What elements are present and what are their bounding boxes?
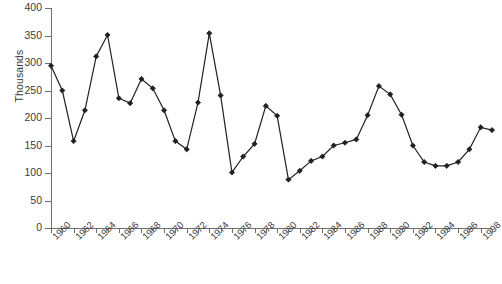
data-point-marker (94, 54, 99, 59)
y-axis-tick-label: 250 (24, 84, 42, 96)
data-point-marker (252, 141, 257, 146)
data-point-marker (116, 96, 121, 101)
data-point-marker (275, 113, 280, 118)
y-axis-tick-mark (45, 173, 51, 174)
y-axis-tick-label: 150 (24, 139, 42, 151)
x-axis-tick-mark (153, 229, 154, 233)
y-axis-tick-label: 0 (36, 221, 42, 233)
data-point-marker (354, 137, 359, 142)
y-axis-tick-label: 400 (24, 1, 42, 13)
data-point-marker (82, 108, 87, 113)
y-axis-tick-label: 350 (24, 29, 42, 41)
series-markers (48, 31, 494, 183)
x-axis-tick-mark (379, 229, 380, 233)
x-axis-tick-mark (311, 229, 312, 233)
x-axis-tick-mark (221, 229, 222, 233)
x-axis-tick-mark (62, 229, 63, 233)
data-point-marker (444, 163, 449, 168)
x-axis-tick-mark (469, 229, 470, 233)
x-axis-tick-mark (243, 229, 244, 233)
data-point-marker (455, 159, 460, 164)
x-axis-tick-mark (492, 229, 493, 233)
x-axis-tick-mark (402, 229, 403, 233)
data-point-marker (331, 143, 336, 148)
data-point-marker (399, 112, 404, 117)
x-axis-tick-mark (175, 229, 176, 233)
data-point-marker (433, 163, 438, 168)
y-axis-tick-mark (45, 91, 51, 92)
data-point-marker (342, 140, 347, 145)
data-point-marker (478, 125, 483, 130)
data-point-marker (410, 143, 415, 148)
data-point-marker (207, 31, 212, 36)
data-point-marker (422, 159, 427, 164)
y-axis-tick-label: 100 (24, 166, 42, 178)
data-point-marker (150, 86, 155, 91)
y-axis-tick-mark (45, 201, 51, 202)
data-point-marker (184, 147, 189, 152)
data-point-marker (241, 154, 246, 159)
data-point-marker (263, 103, 268, 108)
y-axis-title: Thousands (13, 21, 25, 131)
data-point-marker (139, 76, 144, 81)
x-axis-tick-mark (130, 229, 131, 233)
data-point-marker (229, 170, 234, 175)
x-axis-tick-mark (85, 229, 86, 233)
data-point-marker (467, 147, 472, 152)
data-point-marker (297, 168, 302, 173)
y-axis-tick-mark (45, 8, 51, 9)
data-point-marker (161, 108, 166, 113)
y-axis-tick-mark (45, 36, 51, 37)
data-point-marker (320, 154, 325, 159)
series-line (51, 33, 492, 179)
data-point-marker (308, 158, 313, 163)
data-point-marker (195, 100, 200, 105)
x-axis-tick-mark (288, 229, 289, 233)
y-axis-tick-mark (45, 118, 51, 119)
y-axis-tick-label: 200 (24, 111, 42, 123)
y-axis-tick-mark (45, 146, 51, 147)
data-point-marker (286, 177, 291, 182)
x-axis-tick-mark (424, 229, 425, 233)
data-point-marker (376, 84, 381, 89)
data-point-marker (60, 88, 65, 93)
data-point-marker (105, 32, 110, 37)
data-point-marker (173, 139, 178, 144)
data-point-marker (218, 93, 223, 98)
y-axis-tick-mark (45, 63, 51, 64)
x-axis-tick-mark (108, 229, 109, 233)
y-axis-tick-label: 50 (30, 194, 42, 206)
y-axis-tick-label: 300 (24, 56, 42, 68)
x-axis-tick-mark (334, 229, 335, 233)
data-point-marker (71, 139, 76, 144)
x-axis-tick-mark (356, 229, 357, 233)
x-axis-tick-mark (266, 229, 267, 233)
x-axis-tick-mark (198, 229, 199, 233)
y-axis-line (51, 8, 52, 229)
x-axis-tick-label: 1998 (480, 219, 502, 242)
data-point-marker (128, 101, 133, 106)
data-point-marker (388, 92, 393, 97)
data-point-marker (365, 113, 370, 118)
x-axis-tick-mark (447, 229, 448, 233)
data-point-marker (489, 128, 494, 133)
